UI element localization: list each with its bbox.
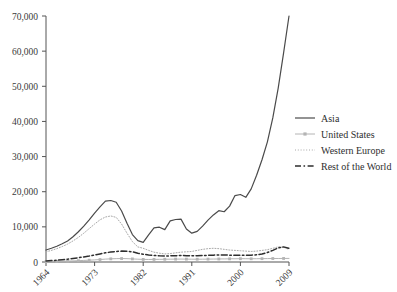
chart-legend: AsiaUnited StatesWestern EuropeRest of t… xyxy=(295,113,391,172)
legend-label-united-states: United States xyxy=(321,129,375,140)
series-marker xyxy=(282,257,285,260)
y-tick-label: 60,000 xyxy=(12,47,38,57)
series-marker xyxy=(271,257,274,260)
series-line-western-europe xyxy=(46,216,289,254)
x-tick-label: 1973 xyxy=(80,267,101,288)
y-tick-label: 30,000 xyxy=(12,152,38,162)
x-tick-label: 2009 xyxy=(274,267,295,288)
series-marker xyxy=(77,259,80,262)
y-tick-label: 10,000 xyxy=(12,222,38,232)
series-marker xyxy=(66,260,69,263)
series-marker xyxy=(207,258,210,261)
y-tick-label: 70,000 xyxy=(12,12,38,22)
series-marker xyxy=(217,258,220,261)
y-tick-label: 40,000 xyxy=(12,117,38,127)
series-marker xyxy=(99,258,102,261)
series-marker xyxy=(131,258,134,261)
series-marker xyxy=(239,257,242,260)
y-tick-label: 0 xyxy=(33,258,38,268)
x-tick-label: 2000 xyxy=(225,267,246,288)
data-series-group xyxy=(45,16,289,263)
series-marker xyxy=(250,257,253,260)
legend-label-asia: Asia xyxy=(321,113,340,124)
series-marker xyxy=(196,258,199,261)
y-tick-label: 50,000 xyxy=(12,82,38,92)
legend-label-western-europe: Western Europe xyxy=(321,145,385,156)
y-axis-ticks: 010,00020,00030,00040,00050,00060,00070,… xyxy=(12,12,46,268)
series-line-asia xyxy=(46,16,289,250)
series-marker xyxy=(153,258,156,261)
series-marker xyxy=(261,257,264,260)
series-marker xyxy=(88,259,91,262)
series-marker xyxy=(228,257,231,260)
y-tick-label: 20,000 xyxy=(12,187,38,197)
series-marker xyxy=(174,258,177,261)
legend-marker xyxy=(303,132,306,135)
series-marker xyxy=(109,257,112,260)
series-marker xyxy=(185,258,188,261)
series-marker xyxy=(163,258,166,261)
chart-container: 010,00020,00030,00040,00050,00060,00070,… xyxy=(0,0,397,292)
series-marker xyxy=(120,257,123,260)
x-tick-label: 1991 xyxy=(177,267,198,288)
x-tick-label: 1964 xyxy=(31,267,52,288)
legend-label-rest-of-the-world: Rest of the World xyxy=(321,161,391,172)
series-marker xyxy=(142,258,145,261)
line-chart: 010,00020,00030,00040,00050,00060,00070,… xyxy=(0,0,397,292)
x-tick-label: 1982 xyxy=(128,267,149,288)
x-axis-ticks: 196419731982199120002009 xyxy=(31,262,295,288)
